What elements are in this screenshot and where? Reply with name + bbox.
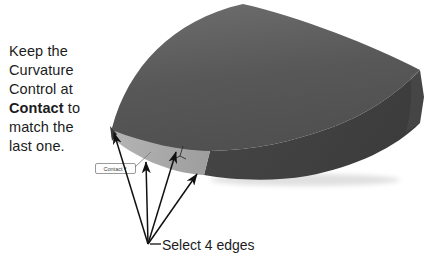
instruction-line: Contact to [9,99,109,118]
instruction-line: Keep the [9,42,109,61]
instruction-text: Keep the Curvature Control at Contact to… [9,42,109,156]
page-container: Keep the Curvature Control at Contact to… [0,0,441,256]
instruction-keyword: Contact [9,100,64,116]
instruction-line: Control at [9,80,109,99]
arrow-line-4 [148,174,197,244]
model-top-face [112,4,420,151]
callout-label: Contact [104,166,123,172]
instruction-line: match the [9,118,109,137]
model-right-face-highlight [406,70,424,132]
instruction-line: last one. [9,137,109,156]
select-edges-label: Select 4 edges [162,237,255,253]
arrow-line-2 [146,162,148,244]
model-front-face [204,70,424,180]
instruction-line: Curvature [9,61,109,80]
dropdown-arrow-icon: ▾ [124,166,127,171]
instruction-line-rest: to [64,100,80,116]
model-shadow [210,174,400,186]
curvature-control-callout[interactable]: Contact ▾ [95,163,136,174]
